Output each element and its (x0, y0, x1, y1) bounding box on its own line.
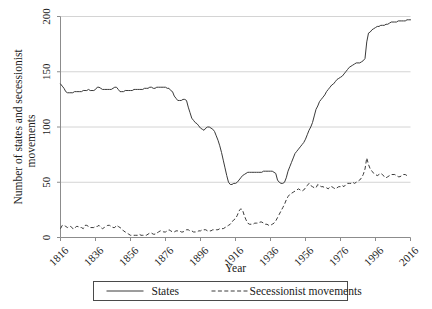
chart-figure: 050100150200 181618361856187618961916193… (0, 0, 432, 309)
x-tick-label-1836: 1836 (82, 244, 106, 268)
series-line-secessionist-movements (61, 158, 409, 235)
chart-legend: StatesSecessionist movements (94, 282, 363, 301)
y-axis-title-line-2: movements (25, 114, 37, 168)
x-tick-label-1896: 1896 (187, 244, 211, 268)
x-tick-label-1996: 1996 (362, 244, 386, 268)
line-chart: 050100150200 181618361856187618961916193… (0, 0, 432, 309)
y-tick-label-50: 50 (40, 176, 52, 188)
y-axis-title-line-1: Number of states and secessionist (12, 49, 24, 205)
y-tick-labels: 050100150200 (40, 8, 52, 241)
tick-marks (57, 17, 411, 242)
legend-label-states: States (152, 285, 180, 297)
y-tick-label-150: 150 (40, 63, 52, 80)
y-tick-label-0: 0 (40, 234, 52, 240)
y-tick-label-100: 100 (40, 118, 52, 135)
x-tick-label-1816: 1816 (47, 244, 71, 268)
y-tick-label-200: 200 (40, 8, 52, 25)
x-tick-label-1876: 1876 (152, 244, 176, 268)
x-tick-label-1936: 1936 (257, 244, 281, 268)
x-axis-title: Year (225, 262, 246, 274)
x-tick-label-1856: 1856 (117, 244, 141, 268)
x-tick-label-1976: 1976 (327, 244, 351, 268)
series-line-states (61, 20, 411, 185)
x-tick-label-1956: 1956 (292, 244, 316, 268)
x-tick-label-2016: 2016 (397, 244, 421, 268)
legend-label-secessionist-movements: Secessionist movements (250, 285, 363, 297)
data-series (61, 20, 411, 235)
grid-lines (61, 17, 411, 183)
